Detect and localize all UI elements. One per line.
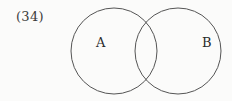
set-b-circle [135, 8, 221, 94]
set-a-circle [71, 8, 157, 94]
venn-diagram [0, 0, 232, 101]
set-a-label: A [96, 36, 105, 50]
set-b-label: B [202, 36, 212, 50]
